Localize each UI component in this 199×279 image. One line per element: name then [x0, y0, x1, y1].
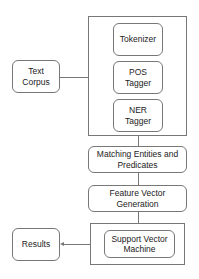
results-label: Results — [22, 239, 50, 250]
connector-feature-to-svm — [138, 212, 139, 223]
svm-node: Support Vector Machine — [104, 230, 175, 258]
text-corpus-label: Text Corpus — [19, 66, 53, 87]
svm-label: Support Vector Machine — [107, 234, 173, 255]
pos-tagger-node: POS Tagger — [113, 61, 163, 94]
pos-tagger-label: POS Tagger — [123, 67, 153, 88]
matching-node: Matching Entities and Predicates — [88, 146, 187, 173]
ner-tagger-node: NER Tagger — [113, 99, 163, 132]
tokenizer-label: Tokenizer — [120, 34, 156, 45]
connector-corpus-to-preprocessing — [60, 77, 88, 78]
matching-label: Matching Entities and Predicates — [92, 149, 184, 170]
text-corpus-node: Text Corpus — [12, 60, 60, 93]
ner-tagger-label: NER Tagger — [123, 105, 153, 126]
connector-preprocessing-to-matching — [138, 136, 139, 146]
tokenizer-node: Tokenizer — [113, 23, 163, 56]
connector-matching-to-feature — [138, 173, 139, 185]
feature-vector-label: Feature Vector Generation — [103, 188, 173, 209]
connector-svm-to-results — [64, 244, 90, 245]
feature-vector-node: Feature Vector Generation — [88, 185, 187, 212]
arrow-head-icon — [60, 242, 64, 246]
results-node: Results — [12, 228, 60, 261]
